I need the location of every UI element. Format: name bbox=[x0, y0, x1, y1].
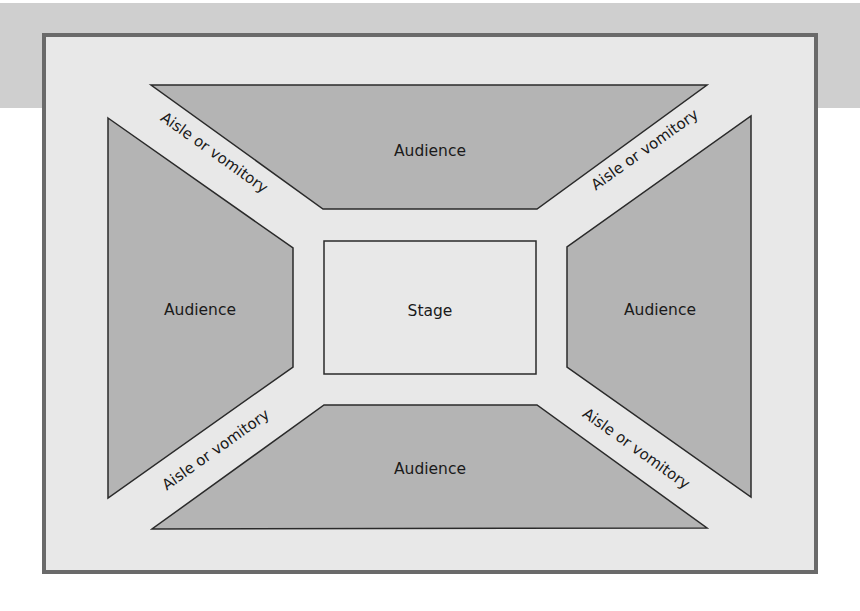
audience-right-label: Audience bbox=[624, 301, 696, 319]
stage-label: Stage bbox=[408, 302, 453, 320]
audience-left-label: Audience bbox=[164, 301, 236, 319]
audience-bottom-label: Audience bbox=[394, 460, 466, 478]
audience-left: Audience bbox=[108, 118, 293, 498]
stage: Stage bbox=[324, 241, 536, 374]
audience-top-label: Audience bbox=[394, 142, 466, 160]
audience-top: Audience bbox=[151, 85, 707, 209]
stage-layout-diagram: Audience Audience Audience Audience Stag… bbox=[0, 0, 860, 611]
